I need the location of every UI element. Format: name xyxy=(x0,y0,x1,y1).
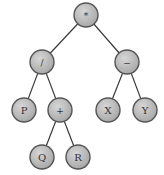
tree-node-operator: * xyxy=(74,3,98,27)
tree-node-operator: / xyxy=(30,50,54,74)
tree-node-operand: X xyxy=(96,98,120,122)
node-label: + xyxy=(56,106,64,116)
node-label: X xyxy=(104,105,112,116)
node-label: P xyxy=(21,105,28,116)
tree-node-operator: − xyxy=(115,50,139,74)
node-label: Y xyxy=(141,105,149,116)
tree-edges xyxy=(24,15,145,157)
tree-node-operand: Y xyxy=(133,98,157,122)
tree-node-operand: Q xyxy=(30,145,54,169)
node-label: R xyxy=(74,152,82,163)
tree-node-operand: P xyxy=(12,98,36,122)
tree-nodes: */−P+XYQR xyxy=(12,3,157,169)
expression-tree-diagram: */−P+XYQR xyxy=(0,0,164,175)
node-label: Q xyxy=(38,152,46,163)
tree-node-operand: R xyxy=(66,145,90,169)
tree-node-operator: + xyxy=(48,98,72,122)
node-label: * xyxy=(84,11,89,21)
node-label: − xyxy=(123,58,131,68)
